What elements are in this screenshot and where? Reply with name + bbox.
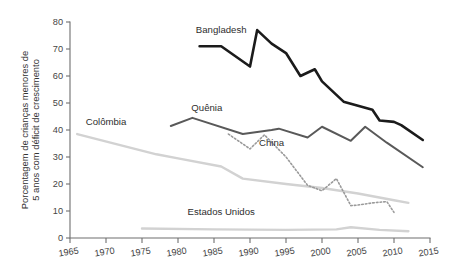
x-tick-label: 1965 bbox=[58, 245, 80, 258]
x-tick-label: 2000 bbox=[310, 245, 332, 258]
series-label-qu-nia: Quênia bbox=[191, 102, 223, 113]
series-line-col-mbia bbox=[77, 134, 408, 203]
series-line-bangladesh bbox=[200, 30, 423, 140]
series-line-china bbox=[228, 134, 394, 212]
chart-series bbox=[77, 30, 423, 231]
series-label-estados-unidos: Estados Unidos bbox=[188, 206, 255, 217]
x-tick-label: 2015 bbox=[418, 245, 440, 258]
x-tick-label: 1990 bbox=[238, 245, 260, 258]
y-tick-label: 30 bbox=[53, 152, 63, 162]
x-tick-label: 1980 bbox=[166, 245, 188, 258]
y-axis-title-line-1: Porcentagem de crianças menores de bbox=[19, 51, 30, 209]
y-tick-label: 40 bbox=[53, 125, 63, 135]
x-axis-ticks: 1965197019751980198519901995200020052010… bbox=[58, 238, 440, 259]
x-tick-label: 1995 bbox=[274, 245, 296, 258]
y-axis-title: Porcentagem de crianças menores de5 anos… bbox=[19, 51, 41, 209]
y-tick-label: 20 bbox=[53, 179, 63, 189]
x-tick-label: 1975 bbox=[130, 245, 152, 258]
y-tick-label: 10 bbox=[53, 206, 63, 216]
series-label-col-mbia: Colômbia bbox=[86, 116, 127, 127]
series-line-estados-unidos bbox=[142, 227, 408, 231]
series-label-china: China bbox=[259, 137, 285, 148]
series-label-bangladesh: Bangladesh bbox=[196, 24, 247, 35]
x-tick-label: 2010 bbox=[382, 245, 404, 258]
x-tick-label: 1970 bbox=[94, 245, 116, 258]
line-chart: Porcentagem de crianças menores de5 anos… bbox=[0, 0, 449, 276]
y-tick-label: 60 bbox=[53, 71, 63, 81]
y-tick-label: 0 bbox=[58, 233, 63, 243]
series-line-qu-nia bbox=[171, 118, 423, 167]
x-tick-label: 1985 bbox=[202, 245, 224, 258]
y-tick-label: 50 bbox=[53, 98, 63, 108]
y-axis-ticks: 01020304050607080 bbox=[53, 17, 70, 243]
x-tick-label: 2005 bbox=[346, 245, 368, 258]
y-tick-label: 70 bbox=[53, 44, 63, 54]
y-tick-label: 80 bbox=[53, 17, 63, 27]
chart-container: Porcentagem de crianças menores de5 anos… bbox=[0, 0, 449, 276]
y-axis-title-line-2: 5 anos com déficit de crescimento bbox=[30, 59, 41, 201]
